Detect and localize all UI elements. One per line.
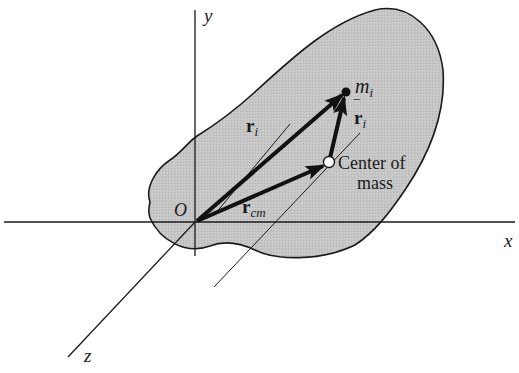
y-axis-label: y <box>202 5 213 26</box>
vector-r-cm-sub: cm <box>250 205 265 220</box>
center-of-mass-marker <box>324 157 335 168</box>
x-axis-label: x <box>503 230 513 251</box>
center-of-mass-diagram: y x z O mi ri rcm ‾ ri Center of mass <box>0 0 519 373</box>
vector-r-i-sub: i <box>254 124 258 139</box>
particle-mi-dot <box>342 88 351 97</box>
vector-r-bar-i-sub: i <box>362 116 366 131</box>
particle-label-main: m <box>355 75 369 97</box>
origin-label: O <box>174 200 187 220</box>
particle-label-sub: i <box>369 85 373 100</box>
center-of-mass-label-line2: mass <box>357 173 393 193</box>
z-axis-label: z <box>83 345 92 366</box>
z-axis <box>68 221 196 357</box>
center-of-mass-label-line1: Center of <box>338 153 405 173</box>
